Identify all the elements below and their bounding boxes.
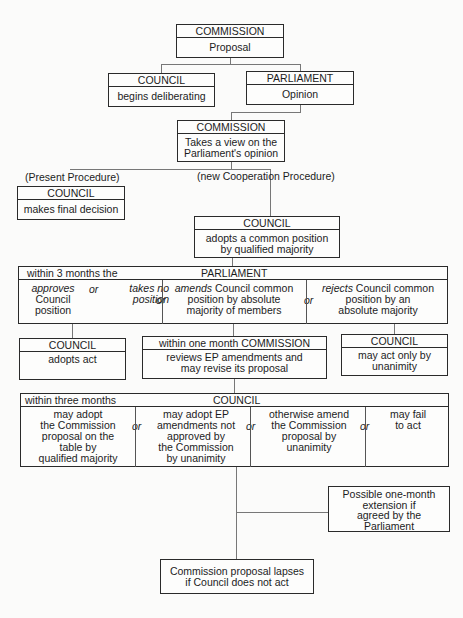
connector — [233, 323, 234, 336]
council-unanimity-box: COUNCIL may act only by unanimity — [341, 334, 448, 376]
present-procedure-label: (Present Procedure) — [25, 171, 120, 183]
divider — [306, 280, 307, 324]
option-line: position — [23, 305, 83, 316]
option-line: to act — [383, 420, 433, 431]
body-line: agreed by the — [331, 510, 447, 521]
council-3months-box: within three months COUNCIL may adopt th… — [20, 393, 449, 467]
box-body: Possible one-month extension if agreed b… — [329, 487, 449, 533]
connector — [231, 112, 301, 113]
header-prefix: within 3 months the — [27, 267, 117, 279]
header-title: PARLIAMENT — [201, 267, 267, 279]
connector — [236, 467, 237, 571]
box-header: COMMISSION — [178, 121, 284, 134]
body-line: Parliament — [331, 521, 447, 532]
box-header: COUNCIL — [20, 339, 125, 352]
box-header: COUNCIL — [109, 74, 214, 87]
box-body: adopts a common position by qualified ma… — [195, 230, 339, 257]
divider — [135, 407, 136, 467]
option-fail-to-act: may fail to act — [383, 409, 433, 431]
body-line: Possible one-month — [331, 489, 447, 500]
or-label: or — [156, 294, 165, 306]
connector — [236, 512, 328, 513]
option-line: majority of members — [169, 305, 299, 316]
box-body: Opinion — [247, 85, 353, 102]
header-prefix: within three months — [25, 394, 116, 406]
box-header: within three months COUNCIL — [21, 394, 448, 407]
new-procedure-label: (new Cooperation Procedure) — [197, 170, 335, 182]
option-otherwise-amend: otherwise amend the Commission proposal … — [259, 409, 359, 453]
connector — [72, 323, 73, 338]
option-rejects: rejects Council common position by an ab… — [311, 283, 445, 316]
option-approves: approves Council position — [23, 283, 83, 316]
extension-box: Possible one-month extension if agreed b… — [328, 486, 450, 532]
connector — [161, 64, 301, 65]
council-deliberating-box: COUNCIL begins deliberating — [108, 73, 215, 107]
options-row: approves Council position or takes no po… — [19, 280, 447, 324]
box-header: COUNCIL — [18, 187, 124, 200]
body-line: may revise its proposal — [145, 363, 324, 374]
body-line: Parliament's opinion — [180, 148, 282, 159]
divider — [365, 407, 366, 467]
council-final-box: COUNCIL makes final decision — [17, 186, 125, 220]
body-line: unanimity — [344, 361, 445, 372]
parliament-3months-box: within 3 months the PARLIAMENT approves … — [18, 266, 448, 324]
box-body: Commission proposal lapses if Council do… — [161, 560, 313, 590]
box-header: COUNCIL — [195, 217, 339, 230]
box-header: COUNCIL — [342, 335, 447, 348]
council-common-position-box: COUNCIL adopts a common position by qual… — [194, 216, 340, 258]
option-adopt-ep-amendments: may adopt EP amendments not approved by … — [145, 409, 247, 464]
divider — [162, 280, 163, 324]
box-body: makes final decision — [18, 200, 124, 217]
option-line: qualified majority — [23, 453, 133, 464]
box-header: PARLIAMENT — [247, 72, 353, 85]
lapse-box: Commission proposal lapses if Council do… — [160, 559, 314, 594]
header-title: COUNCIL — [213, 394, 260, 406]
council-adopts-box: COUNCIL adopts act — [19, 338, 126, 380]
box-body: adopts act — [20, 352, 125, 367]
box-header: within one month COMMISSION — [143, 337, 326, 350]
divider — [250, 407, 251, 467]
box-body: Proposal — [177, 38, 283, 55]
box-body: may act only by unanimity — [342, 348, 447, 374]
box-header: within 3 months the PARLIAMENT — [19, 267, 447, 280]
option-adopt-proposal: may adopt the Commission proposal on the… — [23, 409, 133, 464]
option-line: by unanimity — [145, 453, 247, 464]
option-amends: amends Council common position by absolu… — [169, 283, 299, 316]
body-line: by qualified majority — [197, 244, 337, 255]
box-body: Takes a view on the Parliament's opinion — [178, 134, 284, 161]
or-label: or — [89, 283, 98, 295]
or-label: or — [132, 420, 141, 432]
option-line: unanimity — [259, 442, 359, 453]
commission-month-box: within one month COMMISSION reviews EP a… — [142, 336, 327, 379]
box-header: COMMISSION — [177, 25, 283, 38]
parliament-opinion-box: PARLIAMENT Opinion — [246, 71, 354, 105]
connector — [234, 378, 235, 393]
box-body: begins deliberating — [109, 87, 214, 104]
box-body: reviews EP amendments and may revise its… — [143, 350, 326, 376]
options-row: may adopt the Commission proposal on the… — [21, 407, 448, 467]
commission-proposal-box: COMMISSION Proposal — [176, 24, 284, 58]
commission-view-box: COMMISSION Takes a view on the Parliamen… — [177, 120, 285, 162]
option-line: absolute majority — [311, 305, 445, 316]
body-line: if Council does not act — [163, 577, 311, 588]
